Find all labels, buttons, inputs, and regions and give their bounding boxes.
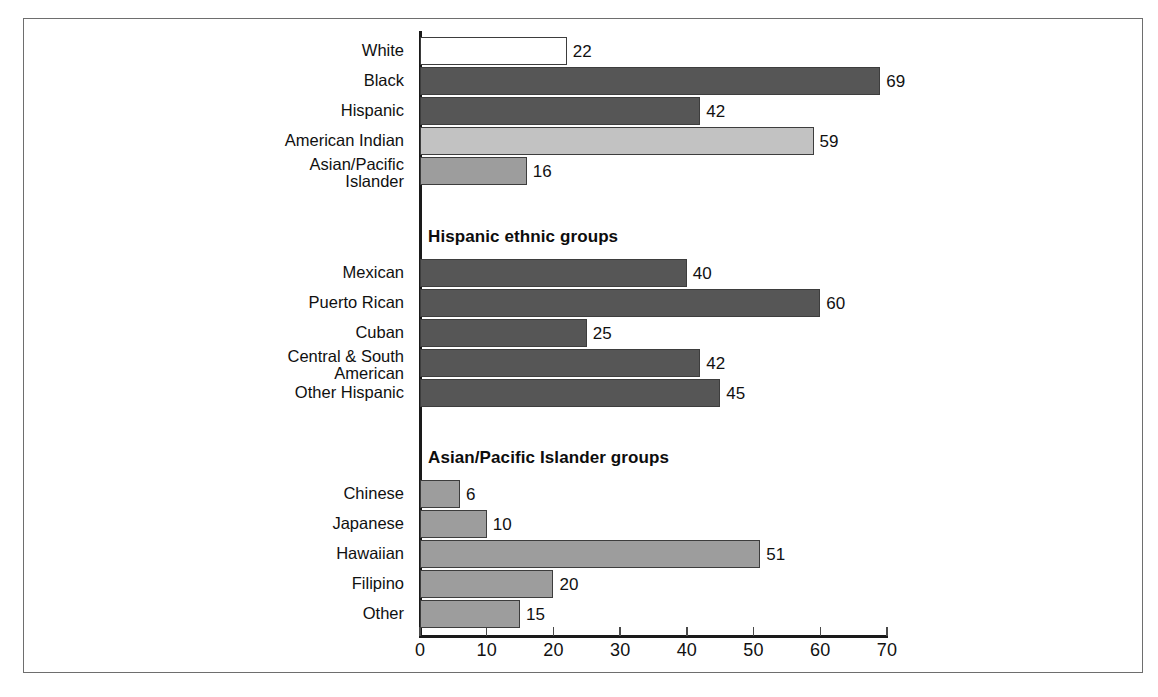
bar-category-label-line1: Mexican [132,264,404,281]
bar-category-label-line1: Central & South [132,348,404,365]
chart-row: Hawaiian51 [24,540,1142,568]
bar-value-label: 20 [559,575,578,595]
x-axis-tick-label: 0 [415,640,425,661]
bar-category-label: Japanese [132,515,412,532]
x-axis-tick [486,627,487,636]
bar-value-label: 42 [706,354,725,374]
bar-category-label-line1: American Indian [132,132,404,149]
bar-value-label: 40 [693,264,712,284]
bar-category-label-line1: Japanese [132,515,404,532]
bar-category-label: Filipino [132,575,412,592]
bar-category-label: American Indian [132,132,412,149]
bar [420,67,880,95]
x-axis-tick-label: 20 [543,640,563,661]
bar-value-label: 51 [766,545,785,565]
chart-row: Asian/PacificIslander16 [24,157,1142,185]
bar-value-label: 22 [573,42,592,62]
x-axis-tick-label: 30 [610,640,630,661]
bar-category-label: Hawaiian [132,545,412,562]
bar-category-label: Black [132,72,412,89]
bar-category-label-line1: White [132,42,404,59]
x-axis-tick-label: 50 [743,640,763,661]
bar-value-label: 60 [826,294,845,314]
bar [420,37,567,65]
bar [420,349,700,377]
bar-category-label-line1: Hispanic [132,102,404,119]
bar-category-label: Mexican [132,264,412,281]
x-axis-line [419,635,888,638]
bar-value-label: 42 [706,102,725,122]
bar-category-label-line1: Black [132,72,404,89]
bar [420,540,760,568]
chart-row: American Indian59 [24,127,1142,155]
bar [420,319,587,347]
bar-category-label: White [132,42,412,59]
x-axis-tick [686,627,687,636]
x-axis-tick [553,627,554,636]
bar-category-label-line1: Cuban [132,324,404,341]
bar-category-label: Asian/PacificIslander [132,156,412,190]
chart-row: Central & SouthAmerican42 [24,349,1142,377]
bar-value-label: 45 [726,384,745,404]
bar-value-label: 6 [466,485,475,505]
chart-row: Chinese6 [24,480,1142,508]
chart-row: Mexican40 [24,259,1142,287]
bar [420,157,527,185]
chart-row: Black69 [24,67,1142,95]
x-axis-tick-label: 60 [810,640,830,661]
bar-category-label-line1: Other Hispanic [132,384,404,401]
bar-category-label-line1: Hawaiian [132,545,404,562]
x-axis-tick [419,627,420,636]
bar [420,570,553,598]
bar-category-label-line2: Islander [132,173,404,190]
bar [420,600,520,628]
bar-category-label-line1: Other [132,605,404,622]
chart-plot-area: 010203040506070 White22Black69Hispanic42… [24,19,1142,672]
bar-value-label: 59 [820,132,839,152]
x-axis-tick-label: 40 [677,640,697,661]
bar [420,480,460,508]
x-axis-tick [886,627,887,636]
section-header-asian: Asian/Pacific Islander groups [428,448,669,468]
chart-row: Other Hispanic45 [24,379,1142,407]
bar-category-label-line1: Chinese [132,485,404,502]
bar [420,127,814,155]
bar-value-label: 15 [526,605,545,625]
bar-category-label: Puerto Rican [132,294,412,311]
bar [420,379,720,407]
bar-category-label-line1: Puerto Rican [132,294,404,311]
section-header-hispanic: Hispanic ethnic groups [428,227,618,247]
x-axis-tick-label: 70 [877,640,897,661]
bar-value-label: 16 [533,162,552,182]
chart-row: Cuban25 [24,319,1142,347]
bar-category-label-line1: Asian/Pacific [132,156,404,173]
bar-category-label: Central & SouthAmerican [132,348,412,382]
bar [420,510,487,538]
bar [420,259,687,287]
chart-row: Other15 [24,600,1142,628]
x-axis-tick [753,627,754,636]
bar-value-label: 25 [593,324,612,344]
chart-row: Japanese10 [24,510,1142,538]
x-axis-tick [619,627,620,636]
bar-category-label: Cuban [132,324,412,341]
bar-category-label: Other [132,605,412,622]
chart-frame: 010203040506070 White22Black69Hispanic42… [23,18,1143,673]
bar-value-label: 69 [886,72,905,92]
chart-row: Puerto Rican60 [24,289,1142,317]
bar-value-label: 10 [493,515,512,535]
bar [420,97,700,125]
bar-category-label-line1: Filipino [132,575,404,592]
x-axis-tick-label: 10 [476,640,496,661]
bar-category-label: Other Hispanic [132,384,412,401]
bar-category-label: Hispanic [132,102,412,119]
chart-row: Hispanic42 [24,97,1142,125]
chart-row: White22 [24,37,1142,65]
x-axis-tick [820,627,821,636]
bar [420,289,820,317]
bar-category-label: Chinese [132,485,412,502]
chart-row: Filipino20 [24,570,1142,598]
